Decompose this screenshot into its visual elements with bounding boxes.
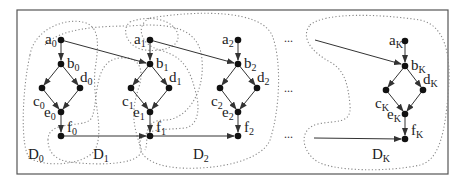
- label-f1: f1: [156, 119, 166, 137]
- node-b1: [147, 61, 154, 68]
- node-b0: [58, 61, 65, 68]
- label-region-dk: DK: [372, 146, 391, 164]
- region-labels: D0 D1 D2 DK: [28, 146, 391, 164]
- label-b1: b1: [156, 55, 169, 73]
- node-f1: [147, 133, 154, 140]
- label-f0: f0: [67, 119, 77, 137]
- node-eK: [402, 111, 409, 118]
- node-fK: [402, 136, 409, 143]
- label-a0: a0: [45, 31, 57, 49]
- node-e0: [58, 109, 65, 116]
- node-d2: [254, 85, 261, 92]
- label-region-d0: D0: [28, 146, 44, 164]
- node-bK: [402, 63, 409, 70]
- label-fK: fK: [411, 122, 424, 140]
- label-e0: e0: [44, 104, 56, 122]
- cross-edges: [61, 40, 401, 139]
- label-d1: d1: [169, 69, 182, 87]
- node-e1: [147, 109, 154, 116]
- label-c0: c0: [33, 93, 45, 111]
- frame-border: [17, 10, 448, 174]
- label-eK: eK: [387, 106, 402, 124]
- node-labels: a0 b0 c0 d0 e0 f0 a1 b1 c1 d1 e1 f1 a2 b…: [33, 31, 439, 140]
- label-dK: dK: [423, 71, 439, 89]
- node-a2: [235, 37, 242, 44]
- node-dK: [420, 87, 427, 94]
- node-f0: [58, 133, 65, 140]
- label-b2: b2: [244, 55, 257, 73]
- node-a1: [147, 37, 154, 44]
- ellipsis-markers: ... ... ...: [284, 31, 293, 141]
- label-a2: a2: [222, 31, 234, 49]
- label-b0: b0: [67, 55, 80, 73]
- label-c1: c1: [122, 93, 134, 111]
- node-e2: [235, 109, 242, 116]
- diagram-canvas: a0 b0 c0 d0 e0 f0 a1 b1 c1 d1 e1 f1 a2 b…: [0, 0, 465, 183]
- label-region-d1: D1: [93, 146, 109, 164]
- label-c2: c2: [211, 93, 223, 111]
- label-f2: f2: [244, 119, 254, 137]
- node-c0: [39, 85, 46, 92]
- node-a0: [58, 37, 65, 44]
- node-c1: [128, 85, 135, 92]
- label-aK: aK: [389, 32, 404, 50]
- node-f2: [235, 133, 242, 140]
- label-region-d2: D2: [193, 146, 209, 164]
- ellipsis-middle: ...: [284, 81, 293, 95]
- label-a1: a1: [134, 31, 146, 49]
- node-c2: [217, 85, 224, 92]
- label-d2: d2: [257, 69, 270, 87]
- node-cK: [383, 87, 390, 94]
- label-e1: e1: [133, 104, 145, 122]
- node-b2: [235, 61, 242, 68]
- node-d0: [77, 85, 84, 92]
- label-e2: e2: [222, 104, 234, 122]
- node-d1: [166, 85, 173, 92]
- label-d0: d0: [80, 69, 93, 87]
- ellipsis-bottom: ...: [284, 127, 293, 141]
- ellipsis-top: ...: [284, 31, 293, 45]
